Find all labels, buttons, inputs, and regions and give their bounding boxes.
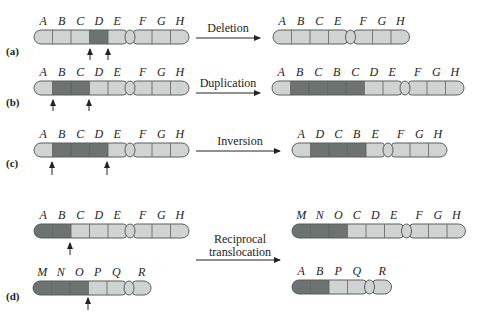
gene-label: H <box>174 65 185 79</box>
gene-label: E <box>389 208 398 222</box>
gene-segment-E <box>383 81 402 95</box>
gene-segment-G <box>152 81 171 95</box>
gene-segment-B <box>53 30 72 44</box>
gene-segment-F <box>410 224 429 238</box>
gene-segment-Q <box>107 281 126 295</box>
gene-segment-B <box>348 143 367 157</box>
chromosome-c-after: ADCBEFGH <box>292 127 447 157</box>
gene-label: H <box>174 14 185 28</box>
gene-segment-D <box>90 30 109 44</box>
gene-segment-A <box>34 30 53 44</box>
gene-segment-F <box>134 143 153 157</box>
operation-label: Inversion <box>217 134 262 148</box>
gene-segment-M <box>33 281 52 295</box>
gene-segment-A <box>272 81 291 95</box>
gene-label: C <box>76 127 85 141</box>
gene-segment-F <box>134 224 153 238</box>
gene-segment-F <box>392 143 411 157</box>
gene-segment-B <box>328 81 347 95</box>
gene-segment-E <box>108 81 127 95</box>
operation-inversion: Inversion <box>196 134 280 151</box>
gene-segment-H <box>429 143 448 157</box>
gene-label: D <box>93 65 103 79</box>
gene-label: F <box>359 14 368 28</box>
gene-segment-B <box>311 280 330 294</box>
gene-label: B <box>297 14 305 28</box>
chromosome-d-after-bottom: ABPQR <box>292 264 392 294</box>
centromere <box>125 30 135 44</box>
gene-label: B <box>58 14 66 28</box>
gene-segment-F <box>134 30 153 44</box>
gene-segment-F <box>409 81 428 95</box>
gene-segment-H <box>171 30 190 44</box>
gene-label: B <box>58 65 66 79</box>
gene-segment-D <box>90 224 109 238</box>
gene-label: B <box>333 65 341 79</box>
gene-label: F <box>138 127 147 141</box>
gene-label: G <box>157 65 166 79</box>
gene-segment-E <box>108 30 127 44</box>
operation-deletion: Deletion <box>196 21 260 38</box>
gene-label: F <box>396 127 405 141</box>
gene-segment-P <box>329 280 348 294</box>
gene-segment-C <box>309 81 328 95</box>
gene-label: C <box>353 208 362 222</box>
gene-label: D <box>93 208 103 222</box>
gene-segment-A <box>292 143 311 157</box>
gene-segment-G <box>429 224 448 238</box>
gene-label: G <box>433 208 442 222</box>
gene-segment-C <box>71 81 90 95</box>
gene-segment-B <box>53 224 72 238</box>
gene-label: H <box>432 127 443 141</box>
gene-label: B <box>316 264 324 278</box>
gene-label: C <box>76 65 85 79</box>
centromere <box>125 81 135 95</box>
gene-segment-G <box>152 224 171 238</box>
gene-label: F <box>138 14 147 28</box>
panel-label-b: (b) <box>6 96 20 109</box>
gene-label: E <box>113 127 122 141</box>
chromosome-a-after: ABCEFGH <box>273 14 410 44</box>
chromosome-c-before: ABCDEFGH <box>34 127 189 157</box>
gene-segment-D <box>366 224 385 238</box>
gene-label: D <box>314 127 324 141</box>
gene-label: E <box>113 14 122 28</box>
gene-segment-B <box>291 81 310 95</box>
gene-label: A <box>39 127 48 141</box>
gene-label: D <box>93 127 103 141</box>
gene-label: H <box>174 127 185 141</box>
gene-label: E <box>388 65 397 79</box>
gene-segment-C <box>348 224 367 238</box>
gene-label: C <box>334 127 343 141</box>
centromere <box>383 143 393 157</box>
gene-label: B <box>58 127 66 141</box>
gene-label: F <box>413 65 422 79</box>
operation-duplication: Duplication <box>196 76 260 93</box>
gene-segment-A <box>34 81 53 95</box>
panel-label-c: (c) <box>6 157 19 170</box>
gene-label: C <box>351 65 360 79</box>
gene-segment-G <box>410 143 429 157</box>
gene-label: A <box>297 264 306 278</box>
gene-label: B <box>353 127 361 141</box>
gene-label: G <box>157 14 166 28</box>
gene-label: B <box>296 65 304 79</box>
gene-label: A <box>297 127 306 141</box>
gene-segment-B <box>53 81 72 95</box>
chromosome-a-before: ABCDEFGH <box>34 14 189 44</box>
gene-segment-G <box>427 81 446 95</box>
panel-label-a: (a) <box>6 45 19 58</box>
gene-segment-R <box>133 281 152 295</box>
gene-label: N <box>315 208 325 222</box>
gene-label: G <box>157 208 166 222</box>
gene-segment-P <box>89 281 108 295</box>
operation-label: Duplication <box>200 76 257 90</box>
gene-segment-D <box>311 143 330 157</box>
panel-label-d: (d) <box>6 290 20 303</box>
gene-label: H <box>395 14 406 28</box>
gene-label: B <box>58 208 66 222</box>
gene-segment-E <box>108 143 127 157</box>
gene-label: R <box>137 265 146 279</box>
gene-segment-C <box>346 81 365 95</box>
gene-segment-N <box>311 224 330 238</box>
